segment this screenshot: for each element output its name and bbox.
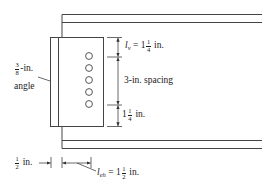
bolt-hole: [86, 89, 93, 96]
lv-dimension-label: lv = 114 in.: [125, 39, 164, 53]
angle-label-line2: angle: [14, 82, 35, 92]
gap-dimension-label: 12 in.: [14, 156, 32, 170]
leh-dimension-label: leh = 112 in.: [97, 166, 139, 180]
bolt-hole: [86, 53, 93, 60]
connection-drawing: [0, 0, 277, 193]
bolt-hole: [86, 101, 93, 108]
bottom-edge-distance-label: 114 in.: [122, 108, 145, 122]
beam-top-flange: [62, 15, 262, 38]
angle-thickness-fraction: 3 8: [15, 62, 19, 76]
vertical-dimension: [107, 38, 122, 127]
horizontal-dimension: [39, 157, 96, 171]
bolt-spacing-label: 3-in. spacing: [124, 76, 173, 86]
bolt-hole: [86, 77, 93, 84]
angle-plate: [51, 38, 104, 127]
angle-label: 3 8 -in.: [14, 62, 33, 76]
angle-leader-line: [38, 77, 50, 81]
beam-bottom-flange: [62, 127, 262, 149]
bolt-hole: [86, 65, 93, 72]
